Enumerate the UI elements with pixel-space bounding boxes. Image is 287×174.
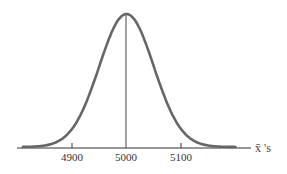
x-axis-label: x̄ 's	[255, 141, 271, 155]
x-tick-label-4900: 4900	[61, 151, 84, 163]
x-tick-label-5100: 5100	[170, 151, 193, 163]
normal-distribution-chart: 4900 5000 5100 x̄ 's	[0, 0, 287, 174]
x-tick-label-5000: 5000	[115, 151, 138, 163]
density-curve	[23, 14, 236, 147]
